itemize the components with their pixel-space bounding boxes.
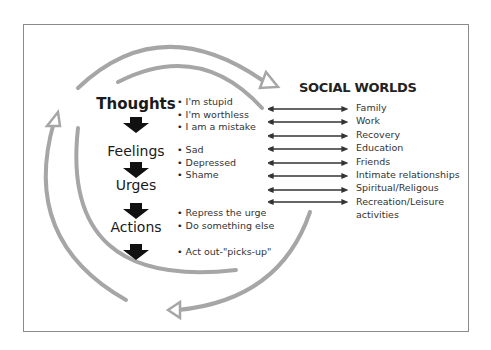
double-arrow-icon bbox=[268, 174, 347, 178]
bullet-item: Sad bbox=[177, 144, 236, 157]
social-worlds-list: Family Work Recovery Education Friends I… bbox=[356, 101, 460, 222]
bullet-item: Shame bbox=[177, 169, 236, 182]
social-world-item: Spiritual/Religous bbox=[356, 181, 460, 194]
double-arrow-icon bbox=[268, 200, 347, 204]
stage-urges: Urges bbox=[86, 177, 186, 193]
stage-feelings: Feelings bbox=[86, 143, 186, 159]
bullet-item: I am a mistake bbox=[177, 121, 256, 134]
arrowhead-left-icon bbox=[168, 302, 180, 318]
urges-examples: Repress the urge Do something else bbox=[177, 207, 274, 232]
double-arrow-icon bbox=[268, 147, 347, 151]
social-world-item: Intimate relationships bbox=[356, 168, 460, 181]
actions-examples: Act out-"picks-up" bbox=[177, 246, 271, 259]
bidirectional-arrows bbox=[268, 104, 348, 214]
bullet-item: I'm stupid bbox=[177, 96, 256, 109]
stage-thoughts: Thoughts bbox=[86, 95, 186, 113]
arrowhead-up-icon bbox=[47, 112, 60, 126]
double-arrow-icon bbox=[268, 107, 347, 111]
social-world-item: Friends bbox=[356, 155, 460, 168]
down-arrow-icon bbox=[123, 162, 149, 178]
stage-actions: Actions bbox=[86, 219, 186, 235]
thoughts-examples: I'm stupid I'm worthless I am a mistake bbox=[177, 96, 256, 134]
social-world-item: activities bbox=[356, 208, 460, 221]
down-arrow-icon bbox=[123, 244, 149, 260]
double-arrow-icon bbox=[268, 134, 347, 138]
double-arrow-icon bbox=[268, 188, 347, 192]
bullet-item: Repress the urge bbox=[177, 207, 274, 220]
social-world-item: Work bbox=[356, 114, 460, 127]
social-world-item: Recreation/Leisure bbox=[356, 195, 460, 208]
down-arrow-icon bbox=[123, 203, 149, 219]
bullet-item: Act out-"picks-up" bbox=[177, 246, 271, 259]
social-world-item: Recovery bbox=[356, 128, 460, 141]
double-arrow-icon bbox=[268, 120, 347, 124]
arrowhead-right-icon bbox=[260, 72, 278, 88]
double-arrow-icon bbox=[268, 161, 347, 165]
social-world-item: Family bbox=[356, 101, 460, 114]
down-arrow-icon bbox=[123, 117, 149, 133]
bullet-item: I'm worthless bbox=[177, 109, 256, 122]
social-world-item: Education bbox=[356, 141, 460, 154]
feelings-examples: Sad Depressed Shame bbox=[177, 144, 236, 182]
bullet-item: Do something else bbox=[177, 220, 274, 233]
social-worlds-title: SOCIAL WORLDS bbox=[299, 80, 417, 95]
bullet-item: Depressed bbox=[177, 157, 236, 170]
